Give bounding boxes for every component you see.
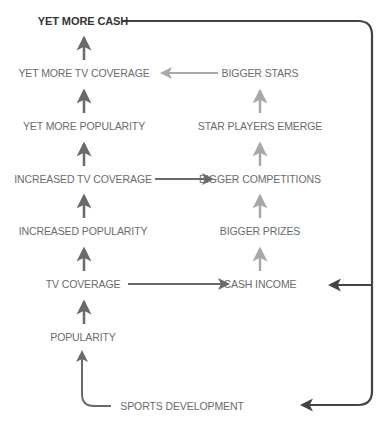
node-cash-income: CASH INCOME (224, 278, 297, 290)
node-yet-more-tv: YET MORE TV COVERAGE (18, 67, 149, 79)
node-yet-more-popularity: YET MORE POPULARITY (23, 120, 145, 132)
flow-arrows (0, 0, 389, 423)
node-sports-development: SPORTS DEVELOPMENT (120, 400, 243, 412)
node-bigger-competitions: BIGGER COMPETITIONS (199, 173, 321, 185)
node-popularity: POPULARITY (50, 331, 116, 343)
node-bigger-prizes: BIGGER PRIZES (220, 225, 300, 237)
node-increased-tv: INCREASED TV COVERAGE (14, 173, 152, 185)
node-yet-more-cash: YET MORE CASH (38, 15, 128, 27)
node-tv-coverage: TV COVERAGE (46, 278, 121, 290)
arrow-dev-to-pop (82, 352, 111, 406)
node-star-players: STAR PLAYERS EMERGE (198, 120, 322, 132)
node-increased-popularity: INCREASED POPULARITY (19, 225, 148, 237)
node-bigger-stars: BIGGER STARS (222, 67, 299, 79)
